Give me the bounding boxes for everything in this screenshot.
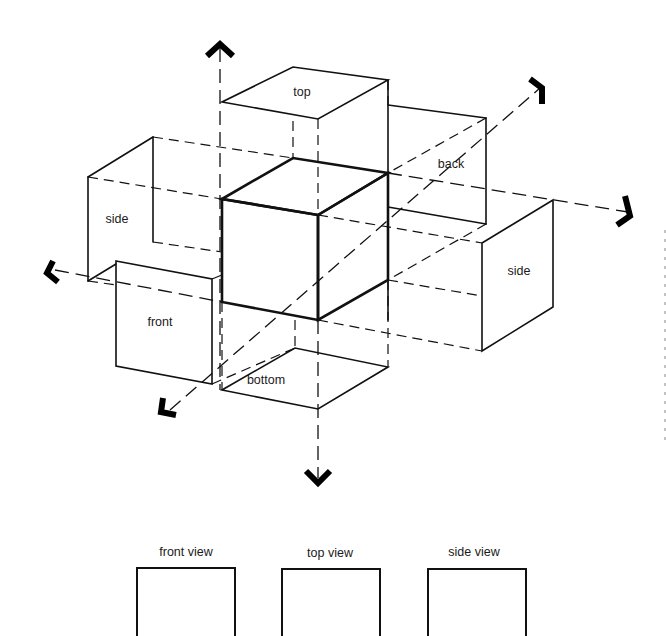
side-right-label: side [508, 264, 531, 278]
bottom-label: bottom [247, 373, 285, 387]
top-face-projection: top [222, 67, 388, 119]
bottom-face-projection: bottom [222, 348, 388, 409]
right-side-projection: side [482, 200, 553, 351]
side-view-label: side view [448, 545, 500, 559]
front-label: front [147, 315, 173, 329]
depth-axis [170, 88, 540, 410]
right-axis [388, 173, 628, 212]
left-side-projection: side [88, 137, 153, 281]
side-left-label: side [106, 212, 129, 226]
arrow-left-icon [47, 261, 58, 282]
cube-top-face [222, 158, 388, 215]
back-label: back [438, 157, 465, 171]
top-label: top [293, 85, 310, 99]
orthographic-projection-diagram: top back side side front bottom [0, 0, 666, 636]
projector-lines [88, 80, 486, 390]
left-axis [55, 270, 222, 302]
side-view: side view [428, 545, 526, 636]
back-face-projection: back [388, 80, 486, 320]
central-cube [222, 158, 388, 320]
top-view: top view [282, 546, 380, 636]
front-face-projection: front [116, 261, 212, 384]
front-view: front view [137, 545, 235, 636]
top-view-label: top view [307, 546, 354, 560]
front-view-label: front view [159, 545, 213, 559]
projection-axes [55, 48, 628, 478]
cube-front-face [222, 199, 318, 320]
orthographic-views: front view top view side view [137, 545, 526, 636]
